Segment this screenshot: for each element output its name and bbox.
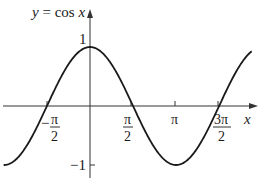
x-tick-pi: π bbox=[171, 112, 178, 127]
y-tick-label-one: 1 bbox=[79, 31, 87, 47]
x-tick-pi2-num: π bbox=[124, 112, 131, 127]
x-tick-neg-pi2-den: 2 bbox=[51, 129, 58, 144]
x-tick-3pi2-num: 3π bbox=[214, 112, 228, 127]
cosine-chart: y = cos x 1 −1 x − π 2 π 2 π 3π 2 bbox=[0, 0, 259, 180]
x-tick-neg-pi2-sign: − bbox=[41, 115, 49, 131]
x-tick-pi2-den: 2 bbox=[124, 129, 131, 144]
chart-title: y = cos x bbox=[30, 4, 85, 20]
x-tick-3pi2-den: 2 bbox=[218, 129, 225, 144]
x-axis-arrow-icon bbox=[249, 103, 258, 109]
y-axis-arrow-icon bbox=[87, 9, 93, 18]
y-tick-label-neg-one: −1 bbox=[70, 157, 86, 173]
x-tick-neg-pi2-num: π bbox=[51, 112, 58, 127]
x-axis-label: x bbox=[243, 111, 251, 127]
